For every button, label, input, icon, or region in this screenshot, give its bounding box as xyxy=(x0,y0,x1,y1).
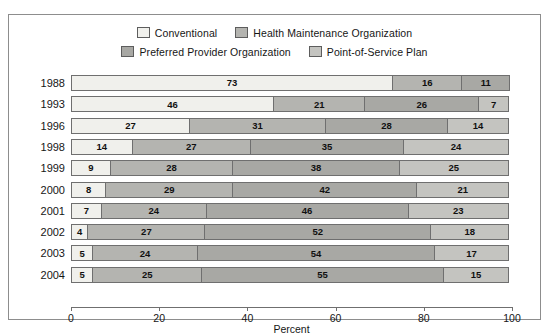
bar-segment[interactable]: 29 xyxy=(105,182,233,198)
legend-item[interactable]: Conventional xyxy=(137,27,218,39)
bar-segment-value: 27 xyxy=(186,142,197,152)
bar-segment-value: 55 xyxy=(317,270,328,280)
bar-segment[interactable]: 5 xyxy=(71,245,93,261)
bar-segment[interactable]: 25 xyxy=(399,160,509,176)
x-axis-title: Percent xyxy=(71,323,512,335)
bar-row: 20024275218 xyxy=(71,224,512,240)
bar-segment[interactable]: 35 xyxy=(250,139,404,155)
bar-segment-value: 35 xyxy=(322,142,333,152)
bar-segment[interactable]: 31 xyxy=(189,118,326,134)
bar-segment[interactable]: 27 xyxy=(132,139,251,155)
bar-segment-value: 25 xyxy=(142,270,153,280)
legend-row: Preferred Provider OrganizationPoint-of-… xyxy=(9,42,540,61)
y-axis-tick-label: 2002 xyxy=(41,224,65,240)
y-axis-tick-label: 1988 xyxy=(41,75,65,91)
bar-segment-value: 21 xyxy=(314,100,325,110)
bar-segment[interactable]: 14 xyxy=(71,139,133,155)
bar-segment[interactable]: 15 xyxy=(443,267,509,283)
bar-segment[interactable]: 17 xyxy=(434,245,509,261)
bar-segment-value: 26 xyxy=(417,100,428,110)
bar-segment-value: 18 xyxy=(464,227,475,237)
bar-segment[interactable]: 46 xyxy=(71,96,274,112)
bar-segment-value: 28 xyxy=(166,163,177,173)
stacked-bar: 27312814 xyxy=(71,118,512,134)
bar-segment[interactable]: 21 xyxy=(273,96,366,112)
bar-segment-value: 46 xyxy=(167,100,178,110)
bar-row: 199627312814 xyxy=(71,118,512,134)
y-axis-tick-label: 2003 xyxy=(41,245,65,261)
bar-segment[interactable]: 5 xyxy=(71,267,93,283)
bar-segment[interactable]: 42 xyxy=(232,182,417,198)
bar-segment[interactable]: 73 xyxy=(71,75,393,91)
bar-segment-value: 5 xyxy=(79,270,84,280)
bar-segment[interactable]: 16 xyxy=(392,75,463,91)
plot-area: 1988731611199346212671996273128141998142… xyxy=(71,75,512,305)
bar-segment-value: 27 xyxy=(125,121,136,131)
chart-figure: ConventionalHealth Maintenance Organizat… xyxy=(8,14,541,320)
bar-segment-value: 14 xyxy=(97,142,108,152)
bar-segment[interactable]: 7 xyxy=(71,203,102,219)
bar-segment[interactable]: 23 xyxy=(408,203,509,219)
legend-item[interactable]: Preferred Provider Organization xyxy=(121,46,290,58)
bar-segment[interactable]: 28 xyxy=(110,160,233,176)
stacked-bar: 7244623 xyxy=(71,203,512,219)
legend-row: ConventionalHealth Maintenance Organizat… xyxy=(9,23,540,42)
bar-segment-value: 7 xyxy=(491,100,496,110)
x-axis-tick xyxy=(159,307,160,311)
bar-segment[interactable]: 14 xyxy=(447,118,509,134)
bar-row: 20017244623 xyxy=(71,203,512,219)
legend-item[interactable]: Point-of-Service Plan xyxy=(309,46,428,58)
bar-segment-value: 28 xyxy=(381,121,392,131)
y-axis-tick-label: 1998 xyxy=(41,139,65,155)
x-axis: 020406080100 xyxy=(71,307,512,308)
bar-row: 20008294221 xyxy=(71,182,512,198)
bar-segment[interactable]: 24 xyxy=(92,245,198,261)
bar-segment-value: 54 xyxy=(311,249,322,259)
bar-segment[interactable]: 21 xyxy=(416,182,509,198)
bar-segment[interactable]: 7 xyxy=(478,96,509,112)
bar-segment-value: 24 xyxy=(140,249,151,259)
legend-swatch-icon xyxy=(309,46,322,57)
bar-segment[interactable]: 52 xyxy=(204,224,431,240)
bar-segment-value: 31 xyxy=(252,121,263,131)
bar-segment[interactable]: 24 xyxy=(101,203,207,219)
bar-segment-value: 8 xyxy=(86,185,91,195)
bar-row: 20035245417 xyxy=(71,245,512,261)
bar-row: 20045255515 xyxy=(71,267,512,283)
y-axis-tick-label: 1999 xyxy=(41,160,65,176)
bar-segment-value: 15 xyxy=(471,270,482,280)
bar-segment[interactable]: 9 xyxy=(71,160,111,176)
bar-segment[interactable]: 54 xyxy=(197,245,435,261)
bar-segment-value: 9 xyxy=(88,163,93,173)
bar-segment[interactable]: 8 xyxy=(71,182,106,198)
bar-segment-value: 17 xyxy=(466,249,477,259)
bar-segment[interactable]: 18 xyxy=(430,224,509,240)
bar-segment[interactable]: 26 xyxy=(364,96,479,112)
bar-segment-value: 73 xyxy=(227,78,238,88)
bar-segment[interactable]: 55 xyxy=(201,267,444,283)
bar-segment[interactable]: 46 xyxy=(206,203,409,219)
legend-item[interactable]: Health Maintenance Organization xyxy=(235,27,412,39)
y-axis-tick-label: 1993 xyxy=(41,96,65,112)
chart-legend: ConventionalHealth Maintenance Organizat… xyxy=(9,23,540,61)
bar-segment-value: 16 xyxy=(422,78,433,88)
legend-swatch-icon xyxy=(121,46,134,57)
bar-segment[interactable]: 24 xyxy=(403,139,509,155)
y-axis-tick-label: 2001 xyxy=(41,203,65,219)
stacked-bar: 4621267 xyxy=(71,96,512,112)
stacked-bar: 731611 xyxy=(71,75,512,91)
stacked-bar: 9283825 xyxy=(71,160,512,176)
bar-segment[interactable]: 11 xyxy=(461,75,510,91)
bar-segment[interactable]: 25 xyxy=(92,267,202,283)
bar-segment[interactable]: 38 xyxy=(232,160,400,176)
y-axis-tick-label: 2000 xyxy=(41,182,65,198)
bar-segment[interactable]: 27 xyxy=(71,118,190,134)
bar-segment-value: 38 xyxy=(311,163,322,173)
bar-segment-value: 29 xyxy=(164,185,175,195)
bar-segment[interactable]: 4 xyxy=(71,224,88,240)
bar-segment[interactable]: 27 xyxy=(87,224,205,240)
bar-segment[interactable]: 28 xyxy=(325,118,448,134)
bar-segment-value: 27 xyxy=(141,227,152,237)
x-axis-tick xyxy=(247,307,248,311)
bar-segment-value: 11 xyxy=(481,78,491,88)
